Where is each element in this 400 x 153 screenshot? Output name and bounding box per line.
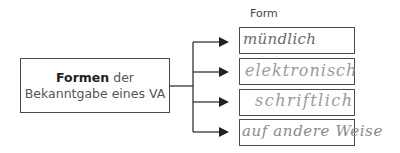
arrow-3 <box>193 97 229 107</box>
arrowhead-icon <box>219 37 229 47</box>
main-concept-box: Formen der Bekanntgabe eines VA <box>20 58 170 113</box>
arrowhead-icon <box>219 127 229 137</box>
main-title-rest: der <box>109 70 134 85</box>
handwritten-answer-3: schriftlich <box>255 91 354 110</box>
arrowhead-icon <box>219 67 229 77</box>
main-title-bold: Formen <box>56 70 109 85</box>
arrow-2 <box>193 67 229 77</box>
arrow-4 <box>193 127 229 137</box>
main-subtitle: Bekanntgabe eines VA <box>25 86 165 102</box>
arrowhead-icon <box>219 97 229 107</box>
form-column-header: Form <box>250 7 278 20</box>
handwritten-answer-2: elektronisch <box>245 61 357 80</box>
handwritten-answer-1: mündlich <box>243 30 316 48</box>
arrow-1 <box>193 37 229 47</box>
handwritten-answer-4: auf andere Weise <box>242 122 383 140</box>
main-title: Formen der <box>56 70 134 86</box>
